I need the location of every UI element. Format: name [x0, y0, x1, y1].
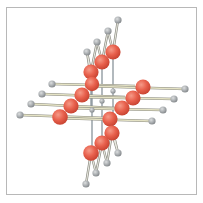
molecule-structure: [0, 0, 203, 203]
small-atoms: [16, 16, 188, 187]
